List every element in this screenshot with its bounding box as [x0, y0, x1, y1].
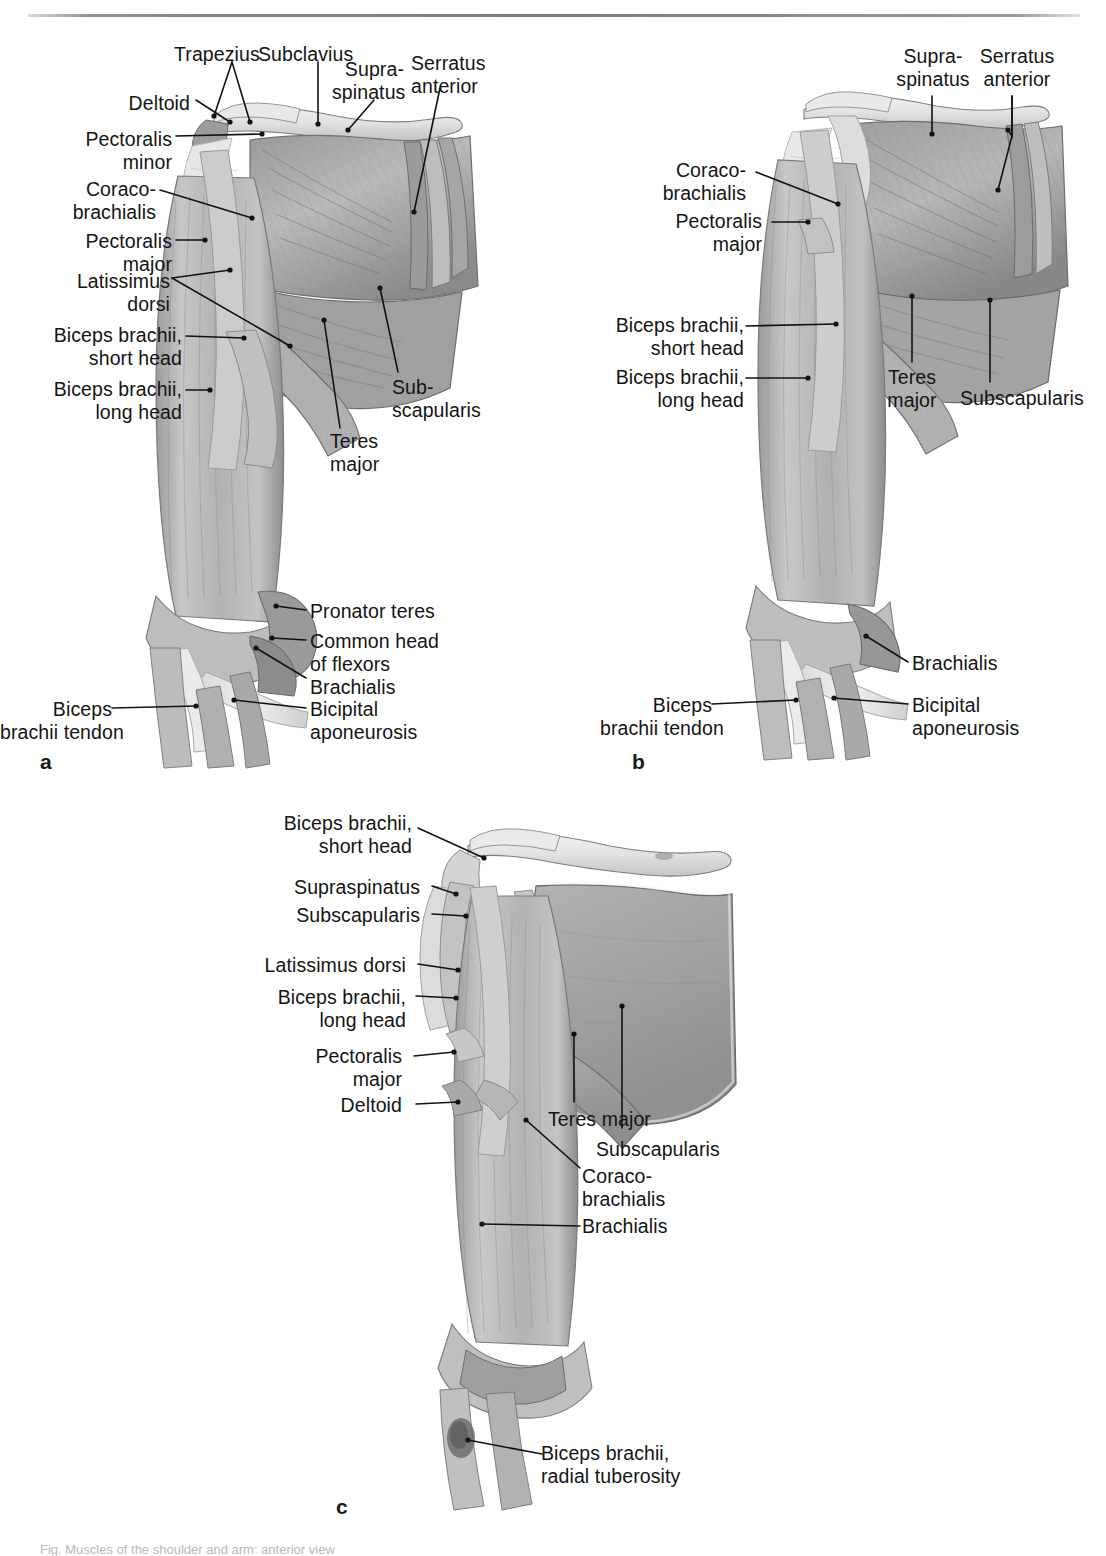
label-latissimus-dorsi: Latissimus dorsi [46, 270, 170, 315]
label-b-biceps-brachii-tendon: Biceps brachii tendon [600, 694, 712, 739]
label-pectoralis-minor: Pectoralis minor [60, 128, 172, 173]
label-b-pectoralis-major: Pectoralis major [644, 210, 762, 255]
label-c-biceps-short-head: Biceps brachii, short head [260, 812, 412, 857]
label-b-biceps-short-head: Biceps brachii, short head [586, 314, 744, 359]
label-common-head-flexors: Common head of flexors [310, 630, 439, 675]
label-biceps-brachii-tendon: Biceps brachii tendon [0, 698, 112, 743]
panel-letter-b: b [632, 750, 645, 774]
label-c-brachialis: Brachialis [582, 1215, 668, 1238]
label-subscapularis: Sub- scapularis [392, 376, 481, 421]
label-c-subscapularis: Subscapularis [260, 904, 420, 927]
label-pronator-teres: Pronator teres [310, 600, 435, 623]
label-c-radial-tuberosity: Biceps brachii, radial tuberosity [541, 1442, 680, 1487]
label-biceps-short-head: Biceps brachii, short head [24, 324, 182, 369]
label-b-subscapularis: Subscapularis [960, 387, 1084, 410]
label-b-serratus-anterior: Serratus anterior [970, 45, 1064, 90]
label-deltoid: Deltoid [100, 92, 190, 115]
label-trapezius: Trapezius [174, 43, 260, 66]
label-b-teres-major: Teres major [872, 366, 952, 411]
label-c-deltoid: Deltoid [260, 1094, 402, 1117]
label-c-coracobrachialis: Coraco- brachialis [582, 1165, 665, 1210]
panel-letter-a: a [40, 750, 52, 774]
label-b-bicipital-aponeurosis: Bicipital aponeurosis [912, 694, 1019, 739]
label-b-supraspinatus: Supra- spinatus [890, 45, 976, 90]
label-c-biceps-long-head: Biceps brachii, long head [260, 986, 406, 1031]
label-pectoralis-major: Pectoralis major [60, 230, 172, 275]
label-c-pectoralis-major: Pectoralis major [260, 1045, 402, 1090]
label-c-teres-major: Teres major [548, 1108, 651, 1131]
panel-c: Biceps brachii, short head Supraspinatus… [260, 790, 880, 1555]
label-b-brachialis: Brachialis [912, 652, 998, 675]
label-b-coracobrachialis: Coraco- brachialis [630, 159, 746, 204]
label-bicipital-aponeurosis: Bicipital aponeurosis [310, 698, 417, 743]
label-b-biceps-long-head: Biceps brachii, long head [586, 366, 744, 411]
panel-b: Supra- spinatus Serratus anterior Coraco… [560, 0, 1106, 790]
label-supraspinatus: Supra- spinatus [332, 58, 404, 103]
label-c-supraspinatus: Supraspinatus [260, 876, 420, 899]
label-c-latissimus-dorsi: Latissimus dorsi [260, 954, 406, 977]
label-serratus-anterior: Serratus anterior [411, 52, 486, 97]
label-teres-major: Teres major [330, 430, 379, 475]
label-brachialis: Brachialis [310, 676, 396, 699]
panel-a: Trapezius Subclavius Supra- spinatus Ser… [0, 0, 560, 790]
figure-caption-truncated: Fig. Muscles of the shoulder and arm: an… [40, 1542, 1070, 1556]
label-biceps-long-head: Biceps brachii, long head [24, 378, 182, 423]
label-c-subscapularis-2: Subscapularis [596, 1138, 720, 1161]
label-coracobrachialis: Coraco- brachialis [50, 178, 156, 223]
panel-letter-c: c [336, 1495, 348, 1519]
